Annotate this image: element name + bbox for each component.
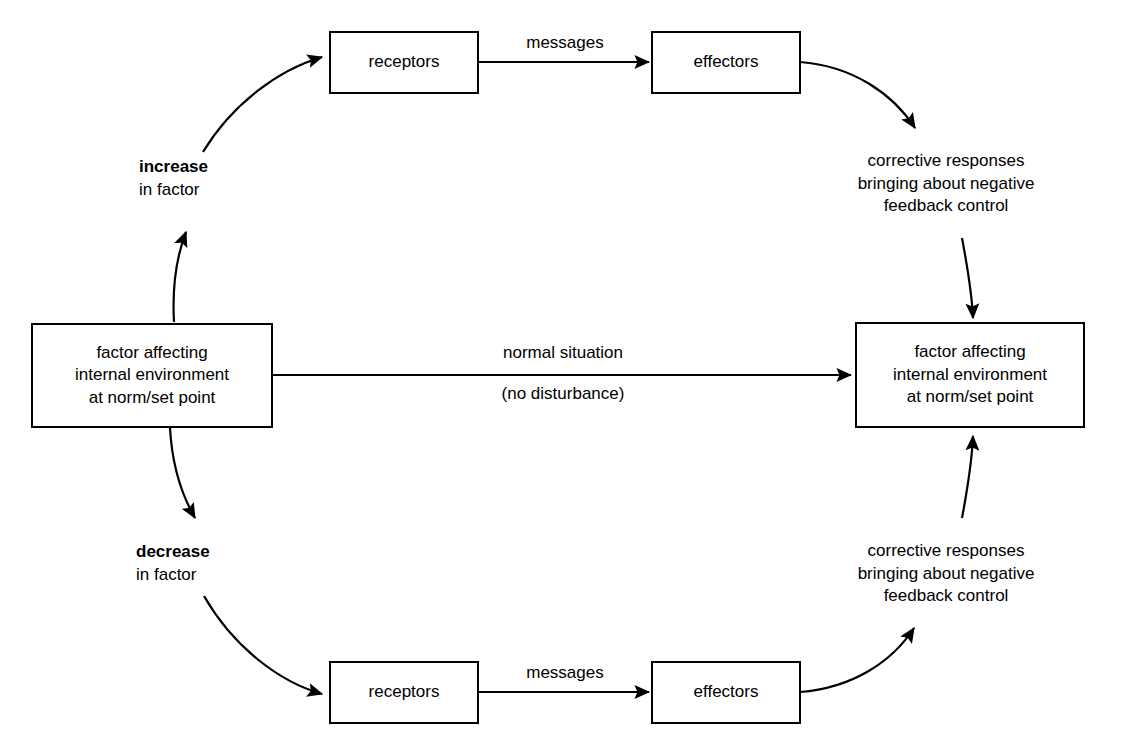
- label-corrective-top-line-2: bringing about negative: [830, 173, 1062, 196]
- label-corrective-responses-top: corrective responses bringing about nega…: [830, 150, 1062, 218]
- node-receptors-top-label: receptors: [369, 51, 440, 73]
- label-corrective-responses-bottom: corrective responses bringing about nega…: [830, 540, 1062, 608]
- edge-left-to-decrease: [170, 428, 195, 518]
- label-messages-bottom: messages: [503, 662, 627, 685]
- label-normal-situation: normal situation: [443, 342, 683, 365]
- edge-corrective-top-to-right-box: [962, 238, 973, 318]
- edge-corrective-bottom-to-right-box: [962, 436, 973, 518]
- label-increase-in-factor: increase in factor: [139, 156, 259, 201]
- node-effectors-top-label: effectors: [694, 51, 759, 73]
- label-corrective-bottom-line-3: feedback control: [830, 585, 1062, 608]
- node-factor-right-line-2: internal environment: [893, 364, 1047, 386]
- node-receptors-bottom[interactable]: receptors: [329, 661, 479, 724]
- homeostasis-feedback-diagram: factor affecting internal environment at…: [0, 0, 1122, 752]
- edge-left-to-increase: [174, 232, 187, 322]
- label-messages-bottom-text: messages: [503, 662, 627, 685]
- label-corrective-top-line-1: corrective responses: [830, 150, 1062, 173]
- node-effectors-bottom-label: effectors: [694, 681, 759, 703]
- node-effectors-bottom[interactable]: effectors: [651, 661, 801, 724]
- label-decrease-strong: decrease: [136, 541, 266, 564]
- label-increase-rest: in factor: [139, 179, 259, 202]
- label-corrective-bottom-line-1: corrective responses: [830, 540, 1062, 563]
- label-decrease-in-factor: decrease in factor: [136, 541, 266, 586]
- label-corrective-bottom-line-2: bringing about negative: [830, 563, 1062, 586]
- node-factor-right[interactable]: factor affecting internal environment at…: [855, 322, 1085, 428]
- label-corrective-top-line-3: feedback control: [830, 195, 1062, 218]
- node-factor-right-line-1: factor affecting: [893, 341, 1047, 363]
- node-factor-left-line-3: at norm/set point: [75, 387, 229, 409]
- edge-effectors-top-to-corrective: [800, 62, 915, 128]
- edge-decrease-to-receptors-bottom: [204, 596, 322, 694]
- label-messages-top: messages: [503, 32, 627, 55]
- label-decrease-rest: in factor: [136, 564, 266, 587]
- label-no-disturbance: (no disturbance): [443, 383, 683, 406]
- label-increase-strong: increase: [139, 156, 259, 179]
- node-receptors-top[interactable]: receptors: [329, 31, 479, 94]
- edge-effectors-bottom-to-corrective: [800, 628, 914, 692]
- edge-increase-to-receptors-top: [203, 57, 322, 152]
- node-factor-left-line-2: internal environment: [75, 364, 229, 386]
- node-effectors-top[interactable]: effectors: [651, 31, 801, 94]
- node-factor-left-line-1: factor affecting: [75, 342, 229, 364]
- node-receptors-bottom-label: receptors: [369, 681, 440, 703]
- label-messages-top-text: messages: [503, 32, 627, 55]
- node-factor-right-line-3: at norm/set point: [893, 386, 1047, 408]
- label-normal-situation-text: normal situation: [443, 342, 683, 365]
- node-factor-left[interactable]: factor affecting internal environment at…: [31, 323, 273, 428]
- label-no-disturbance-text: (no disturbance): [443, 383, 683, 406]
